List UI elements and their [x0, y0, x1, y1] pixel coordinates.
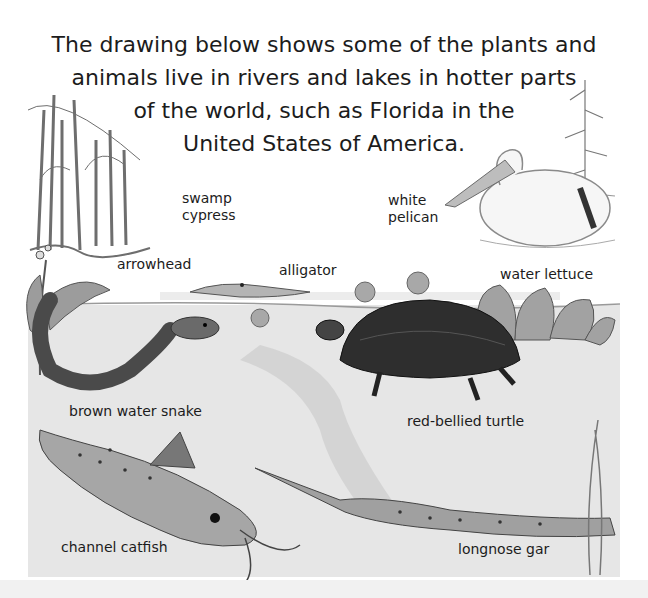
bottom-band — [0, 580, 648, 598]
white-pelican-drawing — [445, 150, 615, 248]
label-channel-catfish: channel catfish — [61, 539, 168, 556]
intro-line: animals live in rivers and lakes in hott… — [0, 61, 648, 94]
label-white-pelican: white pelican — [388, 192, 438, 226]
label-longnose-gar: longnose gar — [458, 541, 549, 558]
label-alligator: alligator — [279, 262, 337, 279]
label-arrowhead: arrowhead — [117, 256, 192, 273]
intro-paragraph: The drawing below shows some of the plan… — [0, 28, 648, 160]
label-swamp-cypress: swamp cypress — [182, 190, 236, 224]
intro-line: The drawing below shows some of the plan… — [0, 28, 648, 61]
label-red-bellied-turtle: red-bellied turtle — [407, 413, 524, 430]
label-water-lettuce: water lettuce — [500, 266, 593, 283]
intro-line: United States of America. — [0, 127, 648, 160]
intro-line: of the world, such as Florida in the — [0, 94, 648, 127]
label-brown-water-snake: brown water snake — [69, 403, 202, 420]
